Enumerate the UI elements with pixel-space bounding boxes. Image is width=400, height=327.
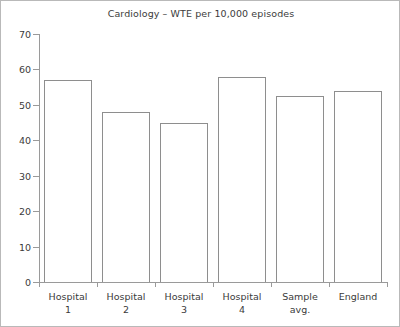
y-tick-label: 20	[3, 206, 31, 217]
y-tick-label-wrap: 70	[1, 34, 31, 35]
chart-figure: Cardiology – WTE per 10,000 episodes 010…	[0, 0, 400, 327]
x-category-label: Sample avg.	[271, 290, 329, 316]
y-tick-label: 50	[3, 99, 31, 110]
x-tick-mark	[39, 282, 40, 287]
bar	[160, 123, 208, 282]
bar	[276, 96, 324, 282]
y-tick-label-wrap: 0	[1, 282, 31, 283]
y-tick-mark	[33, 105, 40, 106]
y-tick-label-wrap: 20	[1, 211, 31, 212]
y-tick-mark	[33, 211, 40, 212]
chart-title: Cardiology – WTE per 10,000 episodes	[1, 8, 400, 19]
y-tick-label: 0	[3, 277, 31, 288]
y-tick-label: 70	[3, 29, 31, 40]
x-tick-mark	[155, 282, 156, 287]
x-tick-mark	[271, 282, 272, 287]
x-tick-mark	[387, 282, 388, 287]
y-tick-label-wrap: 50	[1, 105, 31, 106]
x-category-label: Hospital 3	[155, 290, 213, 316]
x-category-label: England	[329, 290, 387, 303]
y-tick-label-wrap: 30	[1, 176, 31, 177]
x-category-label: Hospital 4	[213, 290, 271, 316]
y-tick-label-wrap: 10	[1, 247, 31, 248]
x-tick-mark	[329, 282, 330, 287]
y-tick-mark	[33, 247, 40, 248]
y-tick-label-wrap: 60	[1, 69, 31, 70]
x-category-label: Hospital 1	[39, 290, 97, 316]
x-category-label: Hospital 2	[97, 290, 155, 316]
bar	[218, 77, 266, 282]
y-tick-label-wrap: 40	[1, 140, 31, 141]
y-tick-mark	[33, 176, 40, 177]
bar	[102, 112, 150, 282]
y-tick-mark	[33, 69, 40, 70]
y-tick-mark	[33, 34, 40, 35]
bar	[334, 91, 382, 282]
y-tick-label: 30	[3, 170, 31, 181]
x-tick-mark	[213, 282, 214, 287]
x-tick-mark	[97, 282, 98, 287]
bar	[44, 80, 92, 282]
y-tick-label: 60	[3, 64, 31, 75]
y-tick-mark	[33, 140, 40, 141]
y-tick-label: 10	[3, 241, 31, 252]
y-tick-label: 40	[3, 135, 31, 146]
